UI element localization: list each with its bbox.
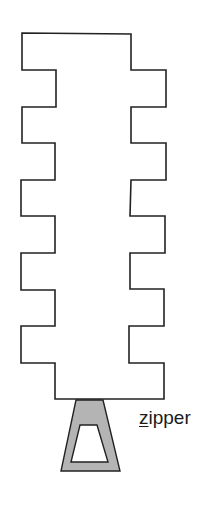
zipper-teeth-outline (21, 33, 166, 399)
zipper-label-underlined-letter: z (139, 407, 149, 428)
zipper-diagram (0, 0, 215, 519)
zipper-slider (61, 400, 120, 471)
zipper-label-rest: ipper (149, 407, 191, 428)
zipper-label: zipper (139, 406, 191, 430)
